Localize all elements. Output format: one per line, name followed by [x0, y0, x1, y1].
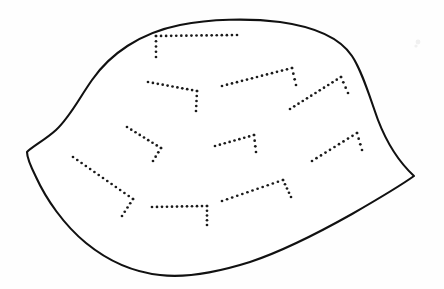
marking-dot	[119, 189, 122, 192]
marking-dot	[186, 88, 189, 91]
marking-dot	[357, 137, 360, 140]
marking-dot	[318, 89, 321, 92]
marking-dot	[226, 83, 229, 86]
marking-dot	[186, 205, 189, 208]
marking-dot	[314, 92, 317, 95]
marking-dot	[210, 34, 213, 37]
marking-dot	[171, 205, 174, 208]
marking-dot	[266, 184, 269, 187]
marking-dot	[206, 219, 209, 222]
marking-dot	[161, 205, 164, 208]
marking-dot	[151, 141, 154, 144]
marking-dot	[126, 206, 129, 209]
marking-dot	[123, 192, 126, 195]
marking-dot	[226, 198, 229, 201]
marking-dot	[195, 105, 198, 108]
marking-dot	[215, 34, 218, 37]
marking-dot	[315, 157, 318, 160]
marking-dot	[151, 206, 154, 209]
marking-dot	[281, 69, 284, 72]
marking-dot	[180, 34, 183, 37]
marking-dot	[231, 82, 234, 85]
marking-dot	[160, 35, 163, 38]
marking-dot	[277, 180, 280, 183]
marking-dot	[347, 92, 350, 95]
marking-dot	[102, 177, 105, 180]
marking-dot	[338, 143, 341, 146]
marking-dot	[76, 159, 79, 162]
marking-dot	[282, 179, 285, 182]
shell-outline-path	[27, 20, 414, 276]
marking-dot	[123, 210, 126, 213]
marking-dot	[293, 78, 296, 81]
marking-dot	[331, 81, 334, 84]
marking-dot	[89, 168, 92, 171]
marking-dot	[246, 191, 249, 194]
marking-dot	[231, 34, 234, 37]
marking-dot	[291, 67, 294, 70]
marking-dot	[271, 182, 274, 185]
marking-dot	[129, 202, 132, 205]
marking-dot	[253, 134, 256, 137]
marking-dot	[310, 94, 313, 97]
marking-dot	[147, 81, 150, 84]
marking-dot	[191, 205, 194, 208]
marking-dot	[292, 72, 295, 75]
marking-dot	[143, 136, 146, 139]
marking-dot	[170, 34, 173, 37]
shell-diagram-canvas	[0, 0, 444, 289]
marking-dot	[254, 145, 257, 148]
marking-dot	[115, 186, 118, 189]
marking-dot	[132, 198, 135, 201]
marking-dot	[196, 90, 199, 93]
marking-dot	[110, 183, 113, 186]
marking-dot	[147, 139, 150, 142]
marking-dot	[157, 151, 160, 154]
marking-dot	[359, 143, 362, 146]
marking-dot	[290, 196, 293, 199]
marking-dot	[236, 194, 239, 197]
marking-dot	[261, 186, 264, 189]
marking-dot	[236, 34, 239, 37]
marking-dot	[156, 82, 159, 85]
marking-dot	[200, 34, 203, 37]
marking-dot	[175, 34, 178, 37]
marking-dot	[155, 56, 158, 59]
marking-dot	[344, 86, 347, 89]
marking-dot	[161, 83, 164, 86]
marking-dot	[152, 82, 155, 85]
figure-root: Shell outline with dotted growth-line ma…	[0, 0, 444, 289]
marking-dot	[223, 142, 226, 145]
marking-dot	[288, 191, 291, 194]
marking-dot	[320, 154, 323, 157]
marking-dot	[261, 74, 264, 77]
marking-dot	[221, 85, 224, 88]
marking-dot	[201, 205, 204, 208]
marking-dot	[347, 137, 350, 140]
marking-dot	[248, 135, 251, 138]
marking-dot	[205, 34, 208, 37]
marking-dot	[289, 108, 292, 111]
marking-dot	[176, 205, 179, 208]
marking-dot	[361, 149, 364, 152]
marking-dot	[138, 134, 141, 137]
marking-dot	[238, 138, 241, 141]
marking-dot	[284, 183, 287, 186]
marking-dot	[206, 224, 209, 227]
marking-dot	[335, 78, 338, 81]
marking-dot	[126, 126, 129, 129]
marking-dot	[340, 76, 343, 79]
marking-dot	[165, 35, 168, 38]
marking-dot	[228, 141, 231, 144]
marking-dot	[231, 196, 234, 199]
marking-dot	[166, 84, 169, 87]
marking-dot	[166, 205, 169, 208]
marking-dot	[256, 76, 259, 79]
marking-dot	[220, 34, 223, 37]
marking-dot	[85, 165, 88, 168]
marking-dot	[255, 151, 258, 154]
marking-dot	[214, 145, 217, 148]
marking-dot	[306, 97, 309, 100]
marking-dot	[293, 105, 296, 108]
marking-dot	[266, 73, 269, 76]
